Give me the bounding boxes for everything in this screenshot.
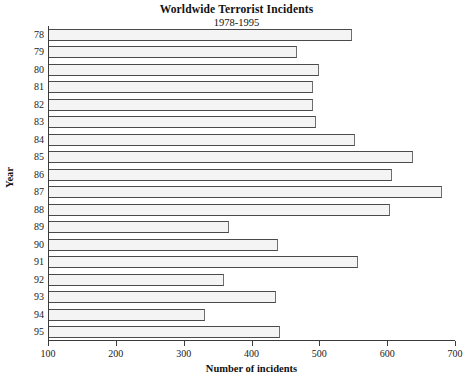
- x-axis-tick-label: 200: [96, 348, 136, 359]
- bar-row: [49, 254, 455, 272]
- x-axis-tick: [184, 341, 185, 346]
- y-axis-tick-label: 90: [0, 240, 44, 250]
- bar-row: [49, 26, 455, 44]
- bar-row: [49, 131, 455, 149]
- bar-row: [49, 114, 455, 132]
- chart-title: Worldwide Terrorist Incidents: [0, 3, 473, 16]
- x-axis-tick: [455, 341, 456, 346]
- x-axis-tick-label: 300: [164, 348, 204, 359]
- bar[interactable]: [49, 291, 276, 303]
- x-axis-tick: [116, 341, 117, 346]
- y-axis-tick-label: 95: [0, 327, 44, 337]
- x-axis-title: Number of incidents: [48, 363, 455, 374]
- y-axis-tick-label: 88: [0, 205, 44, 215]
- y-axis-tick-label: 84: [0, 135, 44, 145]
- y-axis-tick-label: 78: [0, 30, 44, 40]
- bar-row: [49, 306, 455, 324]
- y-axis-tick-label: 94: [0, 310, 44, 320]
- y-axis-tick-label: 82: [0, 100, 44, 110]
- bar-row: [49, 201, 455, 219]
- y-axis-tick-label: 91: [0, 257, 44, 267]
- plot-area: [48, 26, 455, 341]
- x-axis-tick-label: 700: [435, 348, 473, 359]
- x-axis-tick-label: 500: [299, 348, 339, 359]
- bar-row: [49, 271, 455, 289]
- bar-row: [49, 44, 455, 62]
- bar[interactable]: [49, 151, 413, 163]
- x-axis-tick-label: 100: [28, 348, 68, 359]
- chart-figure: Worldwide Terrorist Incidents 1978-1995 …: [0, 0, 473, 382]
- bar[interactable]: [49, 256, 358, 268]
- bar-row: [49, 289, 455, 307]
- y-axis-tick-label: 83: [0, 117, 44, 127]
- x-axis-tick: [252, 341, 253, 346]
- bar[interactable]: [49, 239, 278, 251]
- bar-row: [49, 166, 455, 184]
- x-axis-tick: [387, 341, 388, 346]
- bar[interactable]: [49, 64, 319, 76]
- bar-row: [49, 96, 455, 114]
- bar[interactable]: [49, 29, 352, 41]
- x-axis-tick: [48, 341, 49, 346]
- y-axis-tick-label: 79: [0, 47, 44, 57]
- x-axis-tick: [319, 341, 320, 346]
- bar[interactable]: [49, 99, 313, 111]
- bar-row: [49, 184, 455, 202]
- bar-row: [49, 236, 455, 254]
- bar-row: [49, 79, 455, 97]
- bar[interactable]: [49, 46, 297, 58]
- y-axis-tick-label: 93: [0, 292, 44, 302]
- bar-row: [49, 324, 455, 342]
- bar[interactable]: [49, 221, 229, 233]
- y-axis-tick-label: 81: [0, 82, 44, 92]
- bar[interactable]: [49, 169, 392, 181]
- bar[interactable]: [49, 204, 390, 216]
- bar[interactable]: [49, 186, 442, 198]
- bar[interactable]: [49, 116, 316, 128]
- y-axis-title: Year: [4, 156, 15, 200]
- bar[interactable]: [49, 309, 205, 321]
- y-axis-tick-label: 80: [0, 65, 44, 75]
- bar-row: [49, 61, 455, 79]
- y-axis-tick-label: 89: [0, 222, 44, 232]
- x-axis-tick-label: 600: [367, 348, 407, 359]
- x-axis-tick-label: 400: [232, 348, 272, 359]
- x-axis: Number of incidents 10020030040050060070…: [48, 341, 455, 381]
- bar[interactable]: [49, 134, 355, 146]
- bar[interactable]: [49, 326, 280, 338]
- y-axis-tick-label: 92: [0, 275, 44, 285]
- bar[interactable]: [49, 81, 313, 93]
- bar-row: [49, 219, 455, 237]
- bar[interactable]: [49, 274, 224, 286]
- bar-row: [49, 149, 455, 167]
